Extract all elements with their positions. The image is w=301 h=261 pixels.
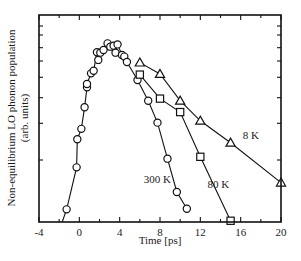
series-300K: [62, 40, 190, 222]
phonon-population-chart: -4048121620 300 K80 K8 K Time [ps] Non-e…: [0, 0, 301, 261]
square-marker: [156, 95, 163, 102]
x-tick-label: 12: [195, 226, 206, 238]
x-tick-label: 20: [276, 226, 288, 238]
circle-marker: [145, 97, 152, 104]
circle-marker: [154, 119, 161, 126]
circle-marker: [95, 56, 102, 63]
circle-marker: [81, 104, 88, 111]
triangle-marker: [226, 138, 235, 146]
circle-marker: [183, 205, 190, 212]
series-label: 8 K: [243, 129, 259, 141]
circle-marker: [63, 206, 70, 213]
circle-marker: [164, 155, 171, 162]
square-marker: [227, 217, 234, 224]
triangle-marker: [135, 58, 144, 66]
y-axis-label-group: Non-equilibrium LO phonon population (ar…: [5, 29, 31, 206]
circle-marker: [100, 46, 107, 53]
y-axis-label: Non-equilibrium LO phonon population: [5, 29, 17, 206]
circle-marker: [114, 41, 121, 48]
x-tick-label: -4: [34, 226, 44, 238]
circle-marker: [83, 80, 90, 87]
series-80K: [136, 71, 234, 224]
circle-marker: [74, 136, 81, 143]
square-marker: [197, 153, 204, 160]
circle-marker: [173, 188, 180, 195]
x-tick-label: 4: [117, 226, 123, 238]
triangle-marker: [155, 69, 164, 77]
circle-marker: [78, 125, 85, 132]
series-line: [140, 75, 231, 221]
square-marker: [136, 71, 143, 78]
series-label: 300 K: [144, 173, 171, 185]
circle-marker: [123, 58, 130, 65]
axis-ticks: [39, 15, 281, 222]
square-marker: [177, 108, 184, 115]
x-tick-label: 16: [235, 226, 247, 238]
y-axis-units: (arb. units): [18, 94, 31, 143]
circle-marker: [90, 67, 97, 74]
plot-frame: [39, 15, 281, 222]
circle-marker: [73, 164, 80, 171]
x-axis-label: Time [ps]: [139, 234, 182, 246]
x-tick-label: 0: [77, 226, 83, 238]
series-label: 80 K: [207, 178, 229, 190]
